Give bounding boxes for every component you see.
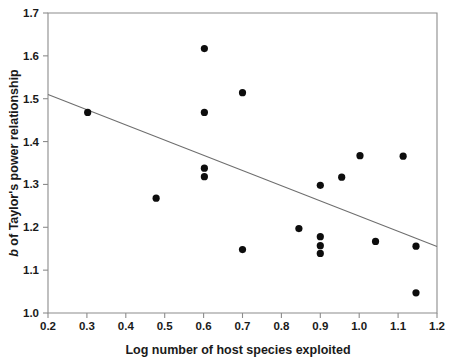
x-tick-label-1.0: 1.0: [351, 320, 367, 332]
y-tick-label-1.2: 1.2: [23, 221, 39, 233]
x-tick-label-0.8: 0.8: [273, 320, 290, 332]
data-point-1: [153, 195, 160, 202]
data-point-11: [317, 242, 324, 249]
data-point-0: [84, 109, 91, 116]
y-tick-label-1.3: 1.3: [23, 178, 39, 190]
y-tick-label-1.5: 1.5: [23, 93, 40, 105]
y-axis-title-rest: of Taylor's power relationship: [7, 69, 21, 249]
x-axis-ticks: [48, 313, 437, 318]
x-tick-label-1.1: 1.1: [390, 320, 407, 332]
regression-trend-line: [48, 94, 437, 246]
y-axis-ticks: [43, 13, 48, 313]
x-tick-label-1.2: 1.2: [429, 320, 445, 332]
x-tick-label-0.9: 0.9: [312, 320, 328, 332]
x-axis-title: Log number of host species exploited: [125, 343, 350, 357]
y-tick-label-1.7: 1.7: [23, 7, 39, 19]
y-tick-label-1.6: 1.6: [23, 50, 39, 62]
y-axis-tick-labels: 1.01.11.21.31.41.51.61.7: [23, 7, 40, 319]
data-point-6: [239, 89, 246, 96]
data-point-14: [356, 152, 363, 159]
data-point-2: [201, 45, 208, 52]
data-point-13: [338, 174, 345, 181]
x-tick-label-0.2: 0.2: [40, 320, 56, 332]
x-tick-label-0.4: 0.4: [118, 320, 135, 332]
plot-frame: [48, 13, 437, 313]
y-tick-label-1.1: 1.1: [23, 264, 40, 276]
y-tick-label-1.0: 1.0: [23, 307, 39, 319]
data-point-4: [201, 165, 208, 172]
data-point-7: [239, 246, 246, 253]
data-point-18: [412, 289, 419, 296]
x-tick-label-0.5: 0.5: [157, 320, 174, 332]
data-point-3: [201, 109, 208, 116]
trend-line: [48, 94, 437, 246]
data-point-16: [400, 153, 407, 160]
x-tick-label-0.6: 0.6: [196, 320, 212, 332]
data-point-8: [295, 225, 302, 232]
data-point-10: [317, 233, 324, 240]
data-point-9: [317, 182, 324, 189]
x-tick-label-0.7: 0.7: [235, 320, 251, 332]
data-point-5: [201, 173, 208, 180]
x-tick-label-0.3: 0.3: [79, 320, 95, 332]
x-axis-tick-labels: 0.20.30.40.50.60.70.80.91.01.11.2: [40, 320, 445, 332]
y-tick-label-1.4: 1.4: [23, 136, 40, 148]
data-point-15: [372, 238, 379, 245]
axis-frame-rect: [48, 13, 437, 313]
svg-text:b of Taylor's power relationsh: b of Taylor's power relationship: [7, 69, 21, 257]
plot-canvas: 0.20.30.40.50.60.70.80.91.01.11.2 1.01.1…: [0, 0, 456, 364]
data-points-group: [84, 45, 420, 296]
data-point-17: [412, 243, 419, 250]
data-point-12: [317, 250, 324, 257]
scatter-plot-figure: 0.20.30.40.50.60.70.80.91.01.11.2 1.01.1…: [0, 0, 456, 364]
y-axis-title: b of Taylor's power relationship: [7, 69, 21, 257]
